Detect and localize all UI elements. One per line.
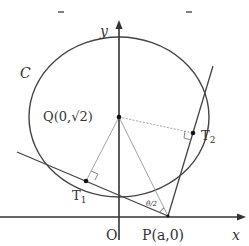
- center-q-label: Q(0,√2): [43, 109, 93, 124]
- y-axis-label: y: [99, 23, 109, 39]
- angle-label: θ/2: [146, 200, 158, 208]
- radius-qt2: [119, 117, 193, 133]
- right-angle-t2-icon: [184, 131, 191, 140]
- point-q: [117, 115, 122, 120]
- point-t1: [84, 179, 89, 184]
- y-axis-arrow-icon: [116, 20, 123, 29]
- point-t2: [191, 131, 196, 136]
- geometry-diagram: C y x O Q(0,√2) T1 T2 P(a,0) θ/2: [0, 0, 249, 246]
- x-axis-label: x: [232, 227, 240, 243]
- angle-arc-icon: [160, 208, 164, 212]
- curve-label: C: [20, 65, 31, 81]
- origin-label: O: [106, 227, 117, 243]
- t2-label: T2: [201, 128, 215, 145]
- segment-qp: [119, 117, 168, 216]
- right-angle-t1-icon: [91, 171, 98, 180]
- point-p: [167, 215, 170, 218]
- point-p-label: P(a,0): [142, 227, 184, 243]
- x-axis-arrow-icon: [237, 214, 246, 221]
